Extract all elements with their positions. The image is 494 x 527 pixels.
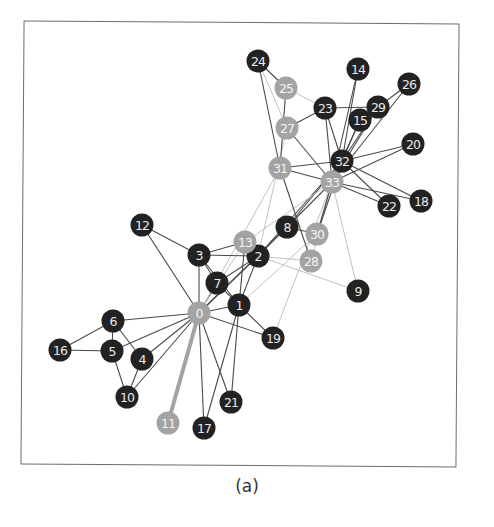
node-label: 29 [371,100,386,115]
node-label: 27 [280,121,294,136]
edge-24-31 [258,61,280,168]
node-label: 31 [273,161,287,176]
node-16: 16 [49,339,72,362]
node-label: 0 [196,306,204,321]
node-layer: 0123456789101112131415161718192021222324… [49,50,433,440]
node-label: 23 [318,101,332,116]
node-18: 18 [410,190,433,213]
node-label: 32 [335,154,349,169]
node-21: 21 [220,391,243,414]
node-label: 25 [279,81,293,96]
node-label: 6 [110,314,118,329]
edge-18-32 [342,161,421,201]
node-24: 24 [247,50,270,73]
node-13: 13 [234,231,257,254]
node-label: 16 [53,343,68,358]
edge-0-5 [112,313,199,351]
node-26: 26 [398,73,421,96]
node-label: 18 [414,194,429,209]
node-label: 30 [310,227,325,242]
node-label: 1 [236,298,243,313]
node-label: 2 [255,249,262,264]
node-6: 6 [102,310,125,333]
figure-caption: (a) [0,476,494,496]
node-4: 4 [131,348,154,371]
node-label: 19 [266,331,281,346]
node-17: 17 [193,417,216,440]
network-graph: 0123456789101112131415161718192021222324… [0,0,494,527]
node-label: 24 [251,54,266,69]
node-label: 20 [406,137,421,152]
node-label: 5 [109,344,116,359]
edge-0-11 [168,313,199,423]
node-label: 7 [214,276,221,291]
node-30: 30 [306,223,329,246]
node-label: 13 [238,235,252,250]
network-figure: 0123456789101112131415161718192021222324… [0,0,494,527]
node-9: 9 [347,280,370,303]
node-label: 12 [135,218,149,233]
node-7: 7 [206,272,229,295]
node-label: 21 [224,395,238,410]
node-31: 31 [269,157,292,180]
node-27: 27 [276,117,299,140]
node-11: 11 [157,412,180,435]
node-label: 10 [120,390,135,405]
edge-9-33 [332,182,358,291]
node-label: 15 [353,113,367,128]
node-29: 29 [367,96,390,119]
node-23: 23 [314,97,337,120]
node-label: 33 [325,175,339,190]
node-label: 28 [304,254,319,269]
node-5: 5 [101,340,124,363]
node-label: 8 [284,220,292,235]
node-label: 22 [382,199,396,214]
node-22: 22 [378,195,401,218]
node-label: 4 [139,352,147,367]
node-label: 3 [196,248,203,263]
node-14: 14 [347,58,370,81]
node-10: 10 [116,386,139,409]
node-25: 25 [275,77,298,100]
node-19: 19 [262,327,285,350]
node-12: 12 [131,214,154,237]
node-0: 0 [188,302,211,325]
node-label: 17 [197,421,211,436]
node-label: 11 [161,416,175,431]
node-8: 8 [276,216,299,239]
node-label: 9 [355,284,363,299]
node-label: 26 [402,77,417,92]
node-3: 3 [188,244,211,267]
edge-0-6 [113,313,199,321]
node-33: 33 [321,171,344,194]
edge-18-33 [332,182,421,201]
edge-0-12 [142,225,199,313]
node-20: 20 [402,133,425,156]
node-1: 1 [228,294,251,317]
node-32: 32 [331,150,354,173]
node-28: 28 [300,250,323,273]
edge-0-17 [199,313,204,428]
node-label: 14 [351,62,366,77]
